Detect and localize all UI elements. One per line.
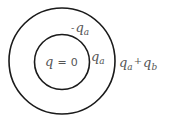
outer-q2-subscript: b (151, 62, 157, 72)
plus-sign: + (134, 55, 142, 66)
center-equals: = (57, 56, 66, 69)
minus-sign: - (71, 22, 74, 33)
induced-negative-charge-label: -qa (70, 21, 89, 34)
neg-q-subscript: a (84, 27, 89, 37)
outer-q1-subscript: a (127, 62, 132, 72)
outer-surface-charge-label: qa+qb (119, 56, 157, 69)
center-q-symbol: q (45, 54, 53, 69)
center-charge-label: q = 0 (45, 55, 78, 68)
neg-q-symbol: q (75, 20, 83, 35)
center-value: 0 (71, 56, 78, 69)
inner-q-subscript: a (99, 56, 104, 66)
inner-sphere-charge-label: qa (91, 50, 105, 63)
